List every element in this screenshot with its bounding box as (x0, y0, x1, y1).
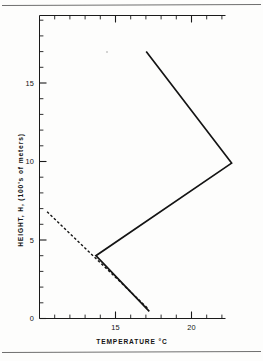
y-tick-label-0: 0 (30, 314, 34, 323)
plot-axes (40, 16, 226, 319)
x-tick-label-15: 15 (111, 323, 120, 332)
bottom-rule (2, 352, 261, 353)
series-measured-temperature-profile (96, 52, 232, 312)
top-rule (2, 5, 261, 6)
temperature-height-chart: 0 5 10 15 15 20 TEMPERATURE °C HEIGHT, H… (0, 0, 263, 361)
y-axis-title: HEIGHT, H, (100's of meters) (17, 133, 25, 247)
y-tick-label-10: 10 (25, 157, 34, 166)
x-axis-minor-ticks (55, 315, 222, 319)
x-axis-major-ticks (116, 312, 192, 319)
data-series-group (47, 52, 232, 312)
page-rules (2, 5, 261, 353)
figure-panel: 0 5 10 15 15 20 TEMPERATURE °C HEIGHT, H… (0, 0, 263, 361)
y-tick-label-15: 15 (25, 79, 34, 88)
paper-speck (106, 51, 107, 52)
x-axis-title: TEMPERATURE °C (96, 338, 168, 345)
y-axis-major-ticks (40, 83, 47, 319)
y-axis-tick-labels: 0 5 10 15 (25, 79, 34, 323)
series-dry-adiabatic-reference (47, 212, 148, 309)
y-tick-label-5: 5 (30, 236, 34, 245)
x-axis-top-ticks (55, 16, 222, 23)
x-tick-label-20: 20 (187, 323, 196, 332)
x-axis-tick-labels: 15 20 (111, 323, 196, 332)
